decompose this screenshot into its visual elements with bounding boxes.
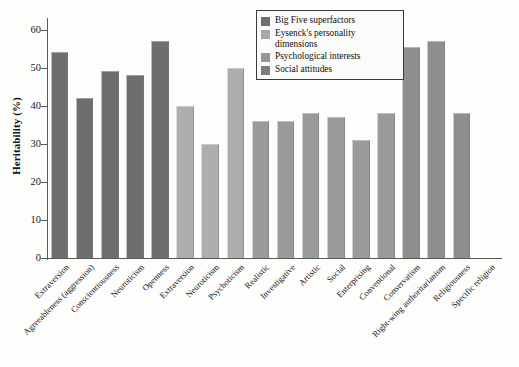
bar (151, 41, 169, 258)
legend-swatch-icon (261, 53, 270, 62)
y-axis-tick-label: 30 (5, 138, 41, 149)
bar (126, 75, 144, 258)
legend-item-label: Psychological interests (275, 51, 360, 62)
bar (377, 113, 395, 258)
bar (201, 144, 219, 258)
chart-legend: Big Five superfactorsEysenck's personali… (256, 10, 404, 80)
legend-item: Social attitudes (261, 64, 398, 75)
bar (76, 98, 94, 258)
legend-item: Big Five superfactors (261, 15, 398, 26)
x-axis-label: Artistic (296, 262, 322, 288)
x-axis-label: Social (324, 262, 346, 284)
y-axis-tick-label: 20 (5, 176, 41, 187)
bar (302, 113, 320, 258)
legend-swatch-icon (261, 66, 270, 75)
bar (402, 47, 420, 258)
bar (327, 117, 345, 258)
legend-swatch-icon (261, 30, 270, 39)
legend-item-label: Big Five superfactors (275, 15, 355, 26)
y-axis-tick-label: 40 (5, 100, 41, 111)
legend-item-label: Eysenck's personality dimensions (275, 28, 398, 49)
y-axis-tick-label: 10 (5, 214, 41, 225)
bar (176, 106, 194, 258)
bar (227, 68, 245, 258)
heritability-bar-chart: Heritability (%) 0102030405060 Extravers… (0, 0, 519, 367)
x-axis-line (47, 258, 502, 259)
bar (101, 71, 119, 258)
y-axis-tick (41, 258, 48, 259)
legend-item: Eysenck's personality dimensions (261, 28, 398, 49)
bar (453, 113, 471, 258)
bar (252, 121, 270, 258)
bar (352, 140, 370, 258)
y-axis-tick-label: 60 (5, 24, 41, 35)
y-axis-tick-label: 0 (5, 252, 41, 263)
bar (277, 121, 295, 258)
legend-item: Psychological interests (261, 51, 398, 62)
legend-item-label: Social attitudes (275, 64, 332, 75)
bar (51, 52, 69, 258)
y-axis-tick-label: 50 (5, 62, 41, 73)
bar (427, 41, 445, 258)
legend-swatch-icon (261, 17, 270, 26)
